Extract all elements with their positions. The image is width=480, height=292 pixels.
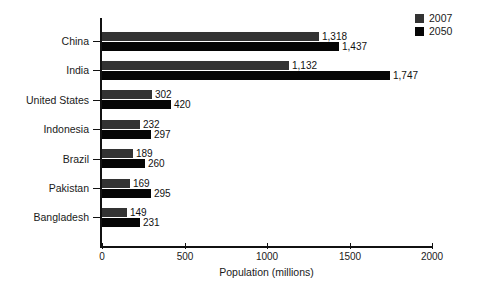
bar-value-label: 231 [143,217,160,228]
category-label-china: China [62,35,89,47]
bar-united-states-2007 [102,90,152,99]
bar-brazil-2050 [102,159,145,168]
bar-value-label: 297 [154,129,171,140]
y-axis-tick [93,41,101,42]
x-axis-tick [432,243,433,249]
legend-item-2050: 2050 [415,26,452,37]
x-axis-tick [267,243,268,249]
y-axis-tick [93,188,101,189]
bar-brazil-2007 [102,149,133,158]
bar-value-label: 1,747 [393,70,418,81]
bar-value-label: 295 [154,188,171,199]
bar-india-2007 [102,61,289,70]
legend-label: 2007 [429,13,452,24]
population-bar-chart: 1,3181,4371,1321,74730242023229718926016… [0,0,480,292]
category-label-bangladesh: Bangladesh [34,211,89,223]
legend-swatch-icon [415,27,424,36]
bar-indonesia-2050 [102,130,151,139]
bar-value-label: 420 [174,99,191,110]
x-axis-title: Population (millions) [101,266,432,278]
legend-label: 2050 [429,26,452,37]
bar-china-2050 [102,42,339,51]
bar-indonesia-2007 [102,120,140,129]
bar-value-label: 1,132 [292,60,317,71]
category-label-brazil: Brazil [63,153,89,165]
x-axis-tick-label: 500 [162,251,208,263]
category-label-united-states: United States [26,94,89,106]
y-axis-tick [93,100,101,101]
bar-india-2050 [102,71,390,80]
bar-bangladesh-2050 [102,218,140,227]
x-axis-tick-label: 2000 [409,251,455,263]
category-label-indonesia: Indonesia [43,123,89,135]
legend-swatch-icon [415,14,424,23]
chart-legend: 20072050 [415,13,452,39]
y-axis-tick [93,217,101,218]
bar-value-label: 169 [133,178,150,189]
y-axis-tick [93,129,101,130]
x-axis-tick [185,243,186,249]
x-axis-tick-label: 1000 [244,251,290,263]
bar-united-states-2050 [102,100,171,109]
x-axis-tick-label: 1500 [327,251,373,263]
y-axis-tick [93,70,101,71]
bar-value-label: 1,437 [342,41,367,52]
category-label-pakistan: Pakistan [49,182,89,194]
legend-item-2007: 2007 [415,13,452,24]
y-axis-tick [93,159,101,160]
category-label-india: India [66,64,89,76]
bar-pakistan-2050 [102,189,151,198]
x-axis-tick [102,243,103,249]
x-axis-tick-label: 0 [79,251,125,263]
bar-pakistan-2007 [102,179,130,188]
x-axis-tick [350,243,351,249]
bar-china-2007 [102,32,319,41]
bar-bangladesh-2007 [102,208,127,217]
bar-value-label: 302 [155,89,172,100]
bar-value-label: 260 [148,158,165,169]
